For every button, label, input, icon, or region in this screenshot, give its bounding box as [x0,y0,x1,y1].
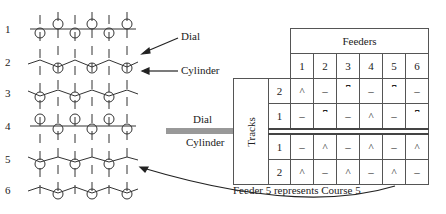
table-row: Tracks 2 ^ – ⎴ – ⎴ – [234,79,429,104]
feeders-header: Feeders [291,29,429,54]
feeder-number: 5 [383,54,406,79]
feeder-number: 6 [406,54,429,79]
mid-cylinder-label: Cylinder [186,136,225,148]
cam-cell: – [337,134,360,160]
course-3 [28,90,138,102]
cam-cell: ^ [360,134,383,160]
cam-cell: ^ [314,134,337,160]
track-number: 2 [269,160,291,185]
course-number: 3 [5,87,11,99]
dial-label: Dial [181,30,200,42]
cam-cell: ^ [291,79,314,104]
cam-cell: – [291,104,314,130]
cam-cell: ^ [406,134,429,160]
course-6 [28,187,138,199]
course-number: 6 [5,184,11,196]
cam-cell: ^ [337,160,360,185]
feeder-number: 3 [337,54,360,79]
feeder-number: 2 [314,54,337,79]
cam-cell: – [406,160,429,185]
feeder-number: 1 [291,54,314,79]
cam-cell: – [383,104,406,130]
course-number: 1 [5,23,11,35]
course-number: 2 [5,56,11,68]
course-4 [30,114,136,134]
cam-cell: ⎴ [337,79,360,104]
cam-cell: ⎴ [406,104,429,130]
cam-cell: – [360,160,383,185]
cam-cell: – [337,104,360,130]
cam-cell: ^ [360,104,383,130]
course-number: 5 [5,153,11,165]
cam-cell: – [291,134,314,160]
course-5 [28,157,138,169]
track-number: 2 [269,79,291,104]
needle-notation [28,12,138,199]
table-corner [234,29,291,79]
cylinder-arrowhead-icon [142,68,149,74]
cam-cell: – [314,160,337,185]
cam-cell: ^ [383,160,406,185]
course5-arrowhead-icon [140,167,148,172]
cam-cell: ^ [291,160,314,185]
course-2 [28,60,138,73]
feeder-track-table: Feeders 1 2 3 4 5 6 Tracks 2 ^ – ⎴ – ⎴ –… [233,28,429,185]
cam-cell: – [383,134,406,160]
needle-lines [40,12,127,195]
cam-cell: – [360,79,383,104]
cam-cell: – [314,79,337,104]
caption: Feeder 5 represents Course 5 [233,184,361,196]
cam-cell: ⎴ [314,104,337,130]
cam-cell: – [406,79,429,104]
dial-arrowhead-icon [142,48,150,54]
mid-dial-label: Dial [193,113,212,125]
course-number: 4 [5,120,11,132]
cam-cell: ⎴ [383,79,406,104]
cylinder-label: Cylinder [181,64,220,76]
tracks-header: Tracks [234,79,269,185]
track-number: 1 [269,134,291,160]
course-1 [30,19,136,38]
track-number: 1 [269,104,291,130]
dial-cylinder-separator [166,129,233,133]
feeder-number: 4 [360,54,383,79]
